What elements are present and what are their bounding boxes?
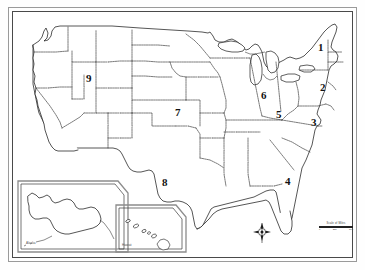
us-outline-map-figure: .coast{fill:#ffffff;stroke:#1d1d1d;strok… xyxy=(0,0,365,270)
scale-bar-title: Scale of Miles xyxy=(316,222,356,225)
map-label-1: 1 xyxy=(318,42,324,53)
border-md-de xyxy=(326,104,334,110)
scale-tick-0: 0 xyxy=(319,228,320,231)
scale-tick-1: 250 xyxy=(333,228,337,231)
border-nj-ny xyxy=(328,82,336,90)
compass-rose-graphic xyxy=(253,223,271,243)
scale-bar: Scale of Miles 0 250 500 xyxy=(316,222,356,231)
map-label-8: 8 xyxy=(162,177,168,188)
lake-ontario xyxy=(299,65,315,72)
map-label-9: 9 xyxy=(86,73,92,84)
hawaii-inset-label: Hawaii xyxy=(122,243,132,247)
alaska-outline xyxy=(28,193,101,234)
map-label-6: 6 xyxy=(261,90,267,101)
map-label-4: 4 xyxy=(285,176,291,187)
map-label-5: 5 xyxy=(276,109,282,120)
map-label-7: 7 xyxy=(175,107,181,118)
scale-tick-2: 500 xyxy=(349,228,353,231)
alaska-panhandle xyxy=(100,220,114,239)
lake-erie xyxy=(281,74,300,82)
map-drawing: .coast{fill:#ffffff;stroke:#1d1d1d;strok… xyxy=(0,0,365,270)
alaska-inset-label: Alaska xyxy=(26,241,36,245)
map-label-2: 2 xyxy=(320,82,326,93)
us-mainland-outline xyxy=(33,24,338,229)
map-label-3: 3 xyxy=(311,117,317,128)
scale-bar-ticks: 0 250 500 xyxy=(319,228,353,231)
